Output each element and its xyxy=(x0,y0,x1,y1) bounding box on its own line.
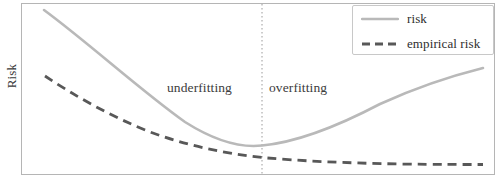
legend-label-empirical-risk: empirical risk xyxy=(407,36,480,52)
legend-entry-risk: risk xyxy=(353,6,493,31)
legend-label-risk: risk xyxy=(407,11,427,27)
underfitting-region-label: underfitting xyxy=(167,80,232,96)
risk-vs-capacity-figure: Risk underfitting overfitting risk empir… xyxy=(0,0,504,182)
y-axis-label: Risk xyxy=(4,52,20,100)
legend-swatch-solid-line-icon xyxy=(361,13,399,25)
legend-box: risk empirical risk xyxy=(352,5,494,55)
overfitting-region-label: overfitting xyxy=(269,80,327,96)
legend-swatch-dashed-line-icon xyxy=(361,38,399,50)
legend-entry-empirical-risk: empirical risk xyxy=(353,31,493,56)
